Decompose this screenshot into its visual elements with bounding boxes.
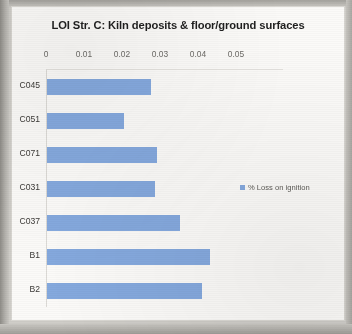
bar-C031[interactable]: [47, 181, 155, 197]
bar-C071[interactable]: [47, 147, 157, 163]
bar-C037[interactable]: [47, 215, 180, 231]
page-gutter-right: [346, 0, 352, 334]
page-gutter-left: [0, 0, 9, 334]
bar-row: B1: [47, 240, 283, 274]
bar-row: C051: [47, 104, 283, 138]
page-edge-bottom: [0, 324, 352, 334]
legend-swatch-icon: [240, 185, 245, 190]
category-label-B1: B1: [29, 250, 40, 260]
bar-row: C045: [47, 70, 283, 104]
scanned-page-frame: LOI Str. C: Kiln deposits & floor/ground…: [0, 0, 352, 334]
bar-row: C037: [47, 206, 283, 240]
x-tick-label-5: 0.05: [228, 49, 244, 59]
chart-legend: % Loss on ignition: [240, 183, 310, 192]
x-tick-label-0: 0: [44, 49, 49, 59]
category-label-C051: C051: [19, 114, 40, 124]
chart-card: LOI Str. C: Kiln deposits & floor/ground…: [11, 6, 345, 321]
x-tick-label-4: 0.04: [190, 49, 206, 59]
x-tick-label-1: 0.01: [76, 49, 92, 59]
x-tick-label-2: 0.02: [114, 49, 130, 59]
x-tick-label-3: 0.03: [152, 49, 168, 59]
bar-row: B2: [47, 274, 283, 308]
bar-B1[interactable]: [47, 249, 210, 265]
bar-B2[interactable]: [47, 283, 202, 299]
legend-label: % Loss on ignition: [248, 183, 310, 192]
category-label-C045: C045: [19, 80, 40, 90]
bar-C045[interactable]: [47, 79, 151, 95]
category-label-B2: B2: [29, 284, 40, 294]
chart-plot: 00.010.020.030.040.05 C045C051C071C031C0…: [12, 7, 346, 322]
bar-C051[interactable]: [47, 113, 124, 129]
category-label-C031: C031: [19, 182, 40, 192]
category-label-C071: C071: [19, 148, 40, 158]
bar-row: C071: [47, 138, 283, 172]
category-label-C037: C037: [19, 216, 40, 226]
